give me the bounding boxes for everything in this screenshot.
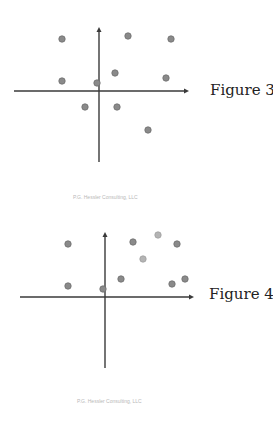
figure-4-panel: Figure 4 P.G. Hessler Consulting, LLC xyxy=(0,210,273,423)
data-point xyxy=(100,286,106,292)
data-point xyxy=(182,276,188,282)
figure-4-footer-credit: P.G. Hessler Consulting, LLC xyxy=(77,398,142,404)
data-point xyxy=(59,36,65,42)
data-point xyxy=(125,33,131,39)
figure-3-scatter-plot xyxy=(0,0,273,210)
data-point xyxy=(65,283,71,289)
data-point xyxy=(130,239,136,245)
figure-3-footer-credit: P.G. Hessler Consulting, LLC xyxy=(73,194,138,200)
figure-3-label: Figure 3 xyxy=(210,81,273,99)
y-axis-arrow-icon xyxy=(103,232,108,237)
figure-3-panel: Figure 3 P.G. Hessler Consulting, LLC xyxy=(0,0,273,210)
data-point xyxy=(94,80,100,86)
figure-4-scatter-plot xyxy=(0,210,273,423)
data-point xyxy=(168,36,174,42)
data-point xyxy=(65,241,71,247)
data-point xyxy=(118,276,124,282)
data-point xyxy=(163,75,169,81)
data-point xyxy=(82,104,88,110)
y-axis-arrow-icon xyxy=(97,27,102,32)
figure-4-label: Figure 4 xyxy=(209,285,273,303)
data-point xyxy=(112,70,118,76)
data-point xyxy=(174,241,180,247)
data-point xyxy=(59,78,65,84)
data-point xyxy=(114,104,120,110)
data-point xyxy=(145,127,151,133)
x-axis-arrow-icon xyxy=(189,295,194,300)
data-point xyxy=(155,232,161,238)
x-axis-arrow-icon xyxy=(184,89,189,94)
data-point xyxy=(140,256,146,262)
data-point xyxy=(169,281,175,287)
